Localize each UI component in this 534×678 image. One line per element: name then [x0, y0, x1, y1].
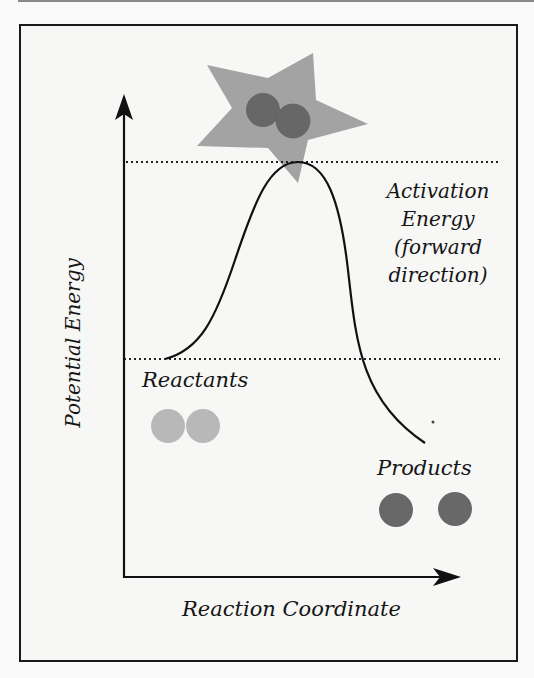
reactant-atom-1 — [151, 409, 185, 443]
product-atom-1 — [379, 493, 413, 527]
product-atom-2 — [438, 492, 472, 526]
activation-line-2: Energy — [368, 205, 508, 233]
activation-line-4: direction) — [368, 261, 508, 289]
reactants-label: Reactants — [142, 368, 248, 392]
transition-atom-1 — [246, 93, 280, 127]
products-label: Products — [377, 456, 472, 480]
activation-line-1: Activation — [368, 177, 508, 205]
y-axis-label: Potential Energy — [61, 258, 85, 428]
speck-mark — [432, 421, 435, 424]
x-axis-label: Reaction Coordinate — [182, 597, 401, 621]
activation-energy-label: Activation Energy (forward direction) — [368, 177, 508, 289]
reactant-atom-2 — [186, 409, 220, 443]
transition-atom-2 — [276, 104, 310, 138]
activation-line-3: (forward — [368, 233, 508, 261]
